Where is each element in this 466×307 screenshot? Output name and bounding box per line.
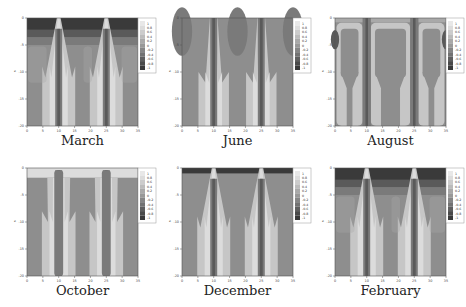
svg-text:25: 25 <box>412 279 416 282</box>
svg-text:0: 0 <box>330 166 332 170</box>
svg-text:15: 15 <box>380 129 384 132</box>
svg-text:-15: -15 <box>173 247 179 251</box>
panel-june: 051015202530350-5-10-15-20xz10.80.60.40.… <box>155 0 313 150</box>
svg-text:15: 15 <box>227 129 231 132</box>
svg-text:-10: -10 <box>173 220 179 224</box>
svg-text:-5: -5 <box>329 43 332 47</box>
svg-text:-20: -20 <box>326 274 332 278</box>
svg-text:-5: -5 <box>329 193 332 197</box>
svg-text:-0.8: -0.8 <box>147 62 153 66</box>
svg-text:5: 5 <box>197 279 199 282</box>
svg-text:-15: -15 <box>326 97 332 101</box>
panel-caption: June <box>155 133 320 148</box>
svg-text:-0.6: -0.6 <box>455 57 461 61</box>
svg-text:-10: -10 <box>18 220 24 224</box>
contour-plot-june: 051015202530350-5-10-15-20xz10.80.60.40.… <box>155 0 313 132</box>
svg-text:25: 25 <box>259 129 263 132</box>
svg-text:1: 1 <box>455 22 457 26</box>
svg-text:-5: -5 <box>176 43 179 47</box>
svg-text:0.4: 0.4 <box>455 35 460 39</box>
svg-text:0.4: 0.4 <box>147 185 152 189</box>
svg-text:-1: -1 <box>455 216 458 220</box>
svg-text:35: 35 <box>444 279 448 282</box>
svg-text:-0.4: -0.4 <box>147 203 153 207</box>
svg-text:0.6: 0.6 <box>302 180 307 184</box>
panel-december: 051015202530350-5-10-15-20xz10.80.60.40.… <box>155 150 313 300</box>
svg-text:0.2: 0.2 <box>302 189 307 193</box>
svg-text:0: 0 <box>26 279 28 282</box>
svg-text:-0.2: -0.2 <box>147 48 153 52</box>
panel-october: 051015202530350-5-10-15-20xz10.80.60.40.… <box>0 150 158 300</box>
svg-text:10: 10 <box>57 279 61 282</box>
colorbar-legend: 10.80.60.40.20-0.2-0.4-0.6-0.8-1 <box>138 168 156 223</box>
svg-text:0: 0 <box>334 279 336 282</box>
svg-text:1: 1 <box>302 22 304 26</box>
svg-text:15: 15 <box>227 279 231 282</box>
svg-text:35: 35 <box>291 129 295 132</box>
svg-text:30: 30 <box>120 129 124 132</box>
panel-caption: December <box>155 283 320 298</box>
svg-text:-15: -15 <box>326 247 332 251</box>
svg-text:-5: -5 <box>21 43 24 47</box>
svg-text:-0.6: -0.6 <box>147 207 153 211</box>
svg-text:-20: -20 <box>173 274 179 278</box>
svg-text:0: 0 <box>177 16 179 20</box>
svg-text:0.6: 0.6 <box>147 30 152 34</box>
svg-text:15: 15 <box>72 279 76 282</box>
svg-text:-20: -20 <box>18 124 24 128</box>
svg-text:0: 0 <box>455 194 457 198</box>
svg-text:25: 25 <box>412 129 416 132</box>
svg-text:20: 20 <box>88 129 92 132</box>
svg-text:-0.2: -0.2 <box>455 198 461 202</box>
svg-text:5: 5 <box>42 279 44 282</box>
svg-text:20: 20 <box>396 279 400 282</box>
colorbar-legend: 10.80.60.40.20-0.2-0.4-0.6-0.8-1 <box>138 18 156 73</box>
svg-text:0.2: 0.2 <box>147 189 152 193</box>
svg-text:0.4: 0.4 <box>147 35 152 39</box>
svg-text:z: z <box>322 219 324 223</box>
svg-text:0.8: 0.8 <box>302 26 307 30</box>
svg-text:0: 0 <box>181 129 183 132</box>
svg-text:-20: -20 <box>173 124 179 128</box>
svg-text:1: 1 <box>455 172 457 176</box>
svg-text:0: 0 <box>330 16 332 20</box>
svg-text:20: 20 <box>88 279 92 282</box>
svg-text:-1: -1 <box>147 216 150 220</box>
svg-text:30: 30 <box>428 279 432 282</box>
panel-caption: February <box>308 283 466 298</box>
svg-text:25: 25 <box>259 279 263 282</box>
svg-text:1: 1 <box>147 22 149 26</box>
svg-text:-0.6: -0.6 <box>455 207 461 211</box>
svg-text:0.8: 0.8 <box>147 26 152 30</box>
svg-text:30: 30 <box>275 129 279 132</box>
svg-text:0.8: 0.8 <box>302 176 307 180</box>
svg-text:0: 0 <box>177 166 179 170</box>
svg-text:10: 10 <box>365 279 369 282</box>
svg-text:1: 1 <box>147 172 149 176</box>
panel-caption: August <box>308 133 466 148</box>
svg-text:0: 0 <box>22 166 24 170</box>
svg-text:-0.6: -0.6 <box>147 57 153 61</box>
svg-text:30: 30 <box>120 279 124 282</box>
svg-text:-20: -20 <box>18 274 24 278</box>
svg-text:10: 10 <box>212 279 216 282</box>
svg-text:5: 5 <box>42 129 44 132</box>
svg-text:-0.8: -0.8 <box>455 62 461 66</box>
svg-text:-10: -10 <box>173 70 179 74</box>
svg-text:0.2: 0.2 <box>455 39 460 43</box>
panel-march: 051015202530350-5-10-15-20xz10.80.60.40.… <box>0 0 158 150</box>
svg-text:-1: -1 <box>302 216 305 220</box>
svg-text:5: 5 <box>350 129 352 132</box>
contour-plot-august: 051015202530350-5-10-15-20xz10.80.60.40.… <box>308 0 466 132</box>
contour-plot-october: 051015202530350-5-10-15-20xz10.80.60.40.… <box>0 150 158 282</box>
svg-text:z: z <box>169 219 171 223</box>
svg-text:30: 30 <box>275 279 279 282</box>
svg-text:-0.4: -0.4 <box>147 53 153 57</box>
contour-plot-february: 051015202530350-5-10-15-20xz10.80.60.40.… <box>308 150 466 282</box>
svg-text:5: 5 <box>350 279 352 282</box>
svg-text:0: 0 <box>455 44 457 48</box>
svg-text:30: 30 <box>428 129 432 132</box>
panel-caption: March <box>0 133 165 148</box>
svg-text:-10: -10 <box>18 70 24 74</box>
svg-text:25: 25 <box>104 279 108 282</box>
